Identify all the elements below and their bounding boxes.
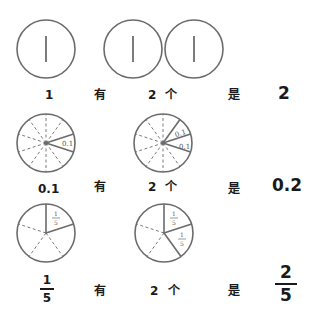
row1-ge: 个 [165,89,177,101]
unit-circle-1 [17,20,75,78]
row2-unit: 0.1 [38,183,59,195]
row2-you: 有 [94,181,106,193]
numerator: 1 [43,274,51,286]
row2-shi: 是 [228,183,240,195]
row1-result: 2 [278,85,290,102]
fifths-circle-two-shaded [135,204,193,262]
fifths-circle-one-shaded [17,204,75,262]
figure-canvas: 0.1 0.1 0.1 1 5 1 5 1 5 [0,0,315,320]
slice-label-numerator: 1 [180,231,184,238]
fraction-bar [40,288,54,290]
row3-result-fraction: 2 5 [275,264,297,304]
row3-shi: 是 [228,285,240,297]
row2-count: 2 [148,181,156,193]
row1-unit: 1 [45,89,53,101]
row3-ge: 个 [168,285,180,297]
slice-label: 0.1 [62,140,73,148]
slice-label-numerator: 1 [54,210,58,217]
row1-count: 2 [148,89,156,101]
denominator: 5 [280,287,292,304]
row1-you: 有 [94,89,106,101]
row3-you: 有 [94,285,106,297]
row2-result: 0.2 [272,177,302,194]
slice-label-denominator: 5 [54,219,58,226]
row3-unit-fraction: 1 5 [40,274,54,304]
row1-shi: 是 [228,89,240,101]
slice-label: 0.1 [174,128,187,139]
row3-count: 2 [150,285,158,297]
unit-circle-3 [165,20,223,78]
denominator: 5 [43,292,51,304]
slice-label-numerator: 1 [172,210,176,217]
row2-ge: 个 [165,181,177,193]
numerator: 2 [280,264,292,281]
slice-label: 0.1 [179,143,190,151]
slice-label-denominator: 5 [180,240,184,247]
unit-circle-2 [104,20,162,78]
slice-label-denominator: 5 [172,219,176,226]
